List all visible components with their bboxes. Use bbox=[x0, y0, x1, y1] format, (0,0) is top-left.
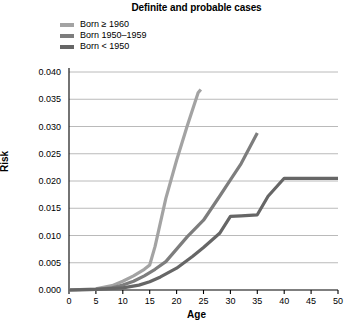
x-tick-label: 35 bbox=[252, 296, 262, 306]
x-tick-label: 0 bbox=[66, 296, 71, 306]
x-tick-label: 20 bbox=[172, 296, 182, 306]
y-tick-label: 0.000 bbox=[38, 285, 61, 295]
series-line bbox=[69, 89, 201, 290]
x-tick-label: 15 bbox=[145, 296, 155, 306]
x-tick-label: 50 bbox=[333, 296, 343, 306]
y-tick-label: 0.005 bbox=[38, 258, 61, 268]
y-tick-label: 0.035 bbox=[38, 94, 61, 104]
x-tick-label: 40 bbox=[279, 296, 289, 306]
x-tick-label: 30 bbox=[225, 296, 235, 306]
y-tick-label: 0.010 bbox=[38, 231, 61, 241]
plot-area: 0.0000.0050.0100.0150.0200.0250.0300.035… bbox=[0, 0, 345, 332]
y-tick-label: 0.025 bbox=[38, 149, 61, 159]
plot-svg: 0.0000.0050.0100.0150.0200.0250.0300.035… bbox=[0, 0, 345, 332]
chart-figure: Definite and probable cases Born ≥ 1960 … bbox=[0, 0, 345, 332]
x-tick-label: 10 bbox=[118, 296, 128, 306]
x-axis-label: Age bbox=[0, 309, 345, 320]
x-tick-label: 5 bbox=[93, 296, 98, 306]
y-tick-label: 0.030 bbox=[38, 122, 61, 132]
series-line bbox=[69, 178, 338, 290]
y-tick-label: 0.040 bbox=[38, 67, 61, 77]
x-tick-label: 45 bbox=[306, 296, 316, 306]
x-tick-label: 25 bbox=[198, 296, 208, 306]
y-axis-label: Risk bbox=[0, 151, 10, 172]
y-tick-label: 0.020 bbox=[38, 176, 61, 186]
y-tick-label: 0.015 bbox=[38, 203, 61, 213]
